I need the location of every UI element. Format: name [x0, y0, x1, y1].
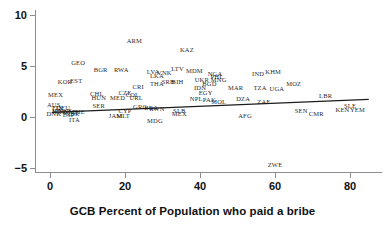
x-axis-spine [35, 172, 382, 173]
data-point-label: YEM [350, 107, 365, 114]
data-point-label: RWA [114, 67, 129, 74]
data-point-label: ZAF [257, 98, 270, 105]
data-point-label: BGR [94, 67, 108, 74]
data-point-label: DZA [236, 95, 250, 102]
y-axis-spine [35, 10, 36, 172]
data-point-label: EST [70, 78, 82, 85]
data-point-label: MOZ [286, 81, 301, 88]
x-tick-label: 40 [194, 181, 206, 192]
data-point-label: RWN [149, 106, 164, 113]
y-tick-label: 10 [15, 10, 27, 21]
y-tick-mark [30, 66, 35, 67]
data-point-label: CMR [309, 111, 324, 118]
x-tick-label: 20 [119, 181, 131, 192]
x-tick-label: 0 [47, 181, 53, 192]
data-point-label: THA [150, 81, 164, 88]
data-point-label: MDM [186, 68, 203, 75]
data-point-label: KHM [265, 69, 281, 76]
data-point-label: SEN [295, 108, 308, 115]
data-point-label: UGA [270, 86, 285, 93]
data-point-label: LTV [171, 66, 184, 73]
data-point-label: GEO [71, 60, 85, 67]
y-tick-mark [30, 168, 35, 169]
x-tick-label: 80 [344, 181, 356, 192]
x-tick-label: 60 [269, 181, 281, 192]
y-tick-label: 0 [21, 112, 27, 123]
data-point-label: HUN [91, 94, 106, 101]
y-tick-mark [30, 15, 35, 16]
data-point-label: ZWE [268, 162, 283, 169]
data-point-label: NPL [190, 95, 203, 102]
data-point-label: IND [252, 71, 264, 78]
y-tick-mark [30, 117, 35, 118]
trend-line [0, 0, 385, 238]
data-point-label: MED [110, 94, 125, 101]
data-point-label: MAR [228, 85, 243, 92]
data-point-label: AFG [238, 113, 252, 120]
data-point-label: MOL [211, 98, 226, 105]
x-axis-title: GCB Percent of Population who paid a bri… [0, 205, 385, 217]
scatter-chart-figure: −50510020406080 ARMKAZGEOBGRRWALTVMDMLVA… [0, 0, 385, 238]
data-point-label: MDG [147, 118, 163, 125]
data-point-label: SER [92, 103, 105, 110]
x-tick-mark [200, 173, 201, 178]
x-tick-mark [125, 173, 126, 178]
data-point-label: URL [129, 94, 143, 101]
data-point-label: TZA [253, 85, 266, 92]
data-point-label: MLT [116, 113, 130, 120]
y-tick-label: 5 [21, 61, 27, 72]
data-point-label: KEN [336, 107, 350, 114]
data-point-label: LBR [319, 92, 332, 99]
data-point-label: DNK [46, 111, 61, 118]
data-point-label: VNK [157, 70, 172, 77]
data-point-label: ITA [69, 117, 80, 124]
data-point-label: KAZ [180, 46, 194, 53]
x-tick-mark [50, 173, 51, 178]
x-tick-mark [350, 173, 351, 178]
data-point-label: MEX [172, 111, 187, 118]
data-point-label: ARM [127, 37, 142, 44]
data-point-label: BIH [172, 79, 184, 86]
x-tick-mark [275, 173, 276, 178]
data-point-label: MEX [48, 91, 63, 98]
y-tick-label: −5 [14, 163, 27, 174]
